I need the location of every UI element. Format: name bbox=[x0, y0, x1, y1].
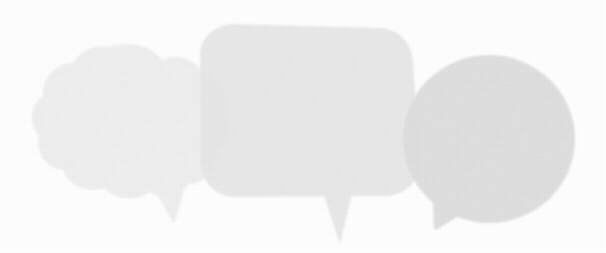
center-bubble-body bbox=[200, 24, 419, 197]
speech-bubbles-illustration: Three faint light-gray speech bubbles ov… bbox=[0, 0, 606, 253]
speech-bubbles-svg: Three faint light-gray speech bubbles ov… bbox=[0, 0, 606, 253]
right-bubble-body bbox=[403, 55, 575, 223]
